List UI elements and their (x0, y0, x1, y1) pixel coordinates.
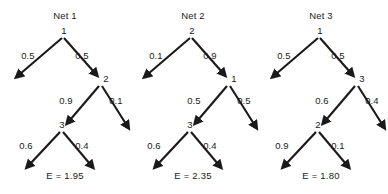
node-level-2: 1 (224, 73, 244, 84)
edge-label-low-left: 0.9 (270, 140, 294, 151)
edge-label-mid-left: 0.5 (182, 95, 206, 106)
edge-label-mid-left: 0.6 (310, 95, 334, 106)
node-level-3: 2 (308, 119, 328, 130)
edge-label-low-right: 0.1 (326, 140, 350, 151)
edge-label-mid-left: 0.9 (54, 95, 78, 106)
edge-label-root-right: 0.5 (70, 50, 94, 61)
net-diagram-2: Net 2 2 1 3 0.1 0.9 0.5 0.5 0.6 0.4 (128, 0, 258, 194)
edge-label-root-right: 0.9 (198, 50, 222, 61)
edge-label-mid-right: 0.1 (104, 95, 128, 106)
edge-label-mid-right: 0.5 (232, 95, 256, 106)
edge-label-low-left: 0.6 (14, 140, 38, 151)
edge-label-root-left: 0.1 (144, 50, 168, 61)
node-level-1: 1 (54, 25, 74, 36)
edge-label-low-right: 0.4 (198, 140, 222, 151)
edge-label-low-right: 0.4 (70, 140, 94, 151)
net-energy-label: E = 1.80 (256, 170, 386, 181)
edge-label-root-left: 0.5 (16, 50, 40, 61)
edge-label-root-right: 0.5 (326, 50, 350, 61)
net-diagram-3: Net 3 1 3 2 0.5 0.5 0.6 0.4 0.9 0.1 (256, 0, 386, 194)
net-diagram-1: Net 1 1 2 3 0.5 0.5 0.9 0.1 0.6 0.4 (0, 0, 130, 194)
edge-label-low-left: 0.6 (142, 140, 166, 151)
figure-canvas: Net 1 1 2 3 0.5 0.5 0.9 0.1 0.6 0.4 (0, 0, 388, 194)
edge-label-root-left: 0.5 (272, 50, 296, 61)
node-level-2: 2 (96, 73, 116, 84)
node-level-1: 1 (310, 25, 330, 36)
node-level-3: 3 (180, 119, 200, 130)
net-energy-label: E = 2.35 (128, 170, 258, 181)
node-level-3: 3 (52, 119, 72, 130)
edge-label-mid-right: 0.4 (360, 95, 384, 106)
net-energy-label: E = 1.95 (0, 170, 130, 181)
node-level-2: 3 (352, 73, 372, 84)
node-level-1: 2 (182, 25, 202, 36)
